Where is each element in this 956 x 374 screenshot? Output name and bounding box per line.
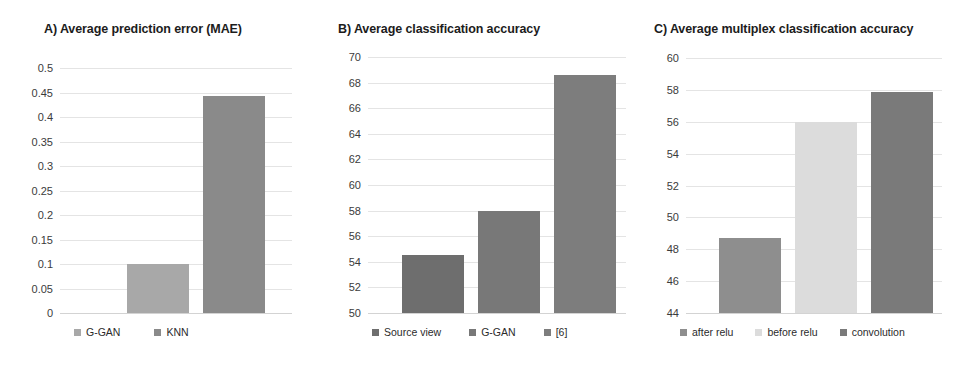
panel-c-y-tick-label: 54: [667, 148, 679, 160]
panel-a-y-tick-label: 0.3: [38, 160, 53, 172]
panel-a-y-tick-label: 0: [47, 307, 53, 319]
panel-a-y-tick-label: 0.1: [38, 258, 53, 270]
panel-c-bar-convolution: [871, 92, 933, 313]
panel-b-y-tick-label: 70: [349, 51, 361, 63]
legend-label: G-GAN: [481, 326, 515, 338]
panel-b-y-tick-label: 56: [349, 230, 361, 242]
panel-c-y-tick-label: 60: [667, 52, 679, 64]
panel-a-plot-area: 00.050.10.150.20.250.30.350.40.450.5: [60, 68, 292, 313]
panel-b-y-tick-label: 54: [349, 256, 361, 268]
panel-a-y-tick-label: 0.45: [32, 87, 53, 99]
panel-c-y-tick-label: 46: [667, 275, 679, 287]
panel-b-gridline: [368, 313, 626, 314]
panel-b-bar-source-view: [402, 255, 464, 313]
legend-label: [6]: [556, 326, 568, 338]
legend-label: convolution: [852, 326, 905, 338]
panel-c-bar-after-relu: [719, 238, 781, 313]
panel-a-bars: [60, 68, 292, 313]
panel-c-y-tick-label: 44: [667, 307, 679, 319]
panel-b-y-tick-label: 64: [349, 128, 361, 140]
panel-c-y-tick-label: 56: [667, 116, 679, 128]
legend-swatch-icon: [544, 329, 551, 336]
panel-a-y-tick-label: 0.4: [38, 111, 53, 123]
panel-a-y-tick-label: 0.2: [38, 209, 53, 221]
panel-a-legend: G-GANKNN: [74, 326, 189, 338]
panel-b-y-tick-label: 52: [349, 281, 361, 293]
panel-b-legend: Source viewG-GAN[6]: [372, 326, 567, 338]
panel-b-legend-item[interactable]: G-GAN: [469, 326, 515, 338]
legend-label: after relu: [692, 326, 733, 338]
panel-a-title: A) Average prediction error (MAE): [44, 22, 242, 36]
panel-b-bars: [368, 57, 626, 313]
panel-c-y-tick-label: 50: [667, 211, 679, 223]
panel-b-plot-area: 5052545658606264666870: [368, 57, 626, 313]
panel-c-legend: after relubefore reluconvolution: [680, 326, 905, 338]
legend-swatch-icon: [469, 329, 476, 336]
legend-swatch-icon: [680, 329, 687, 336]
legend-label: Source view: [384, 326, 441, 338]
panel-c-title: C) Average multiplex classification accu…: [654, 22, 913, 36]
legend-swatch-icon: [154, 329, 161, 336]
legend-label: KNN: [166, 326, 188, 338]
panel-b-y-tick-label: 68: [349, 77, 361, 89]
panel-a-gridline: [60, 313, 292, 314]
panel-c-legend-item[interactable]: convolution: [840, 326, 905, 338]
legend-label: G-GAN: [86, 326, 120, 338]
panel-b-legend-item[interactable]: [6]: [544, 326, 568, 338]
panel-a-y-tick-label: 0.15: [32, 234, 53, 246]
panel-c-plot-area: 444648505254565860: [686, 58, 942, 313]
panel-a-y-tick-label: 0.35: [32, 136, 53, 148]
panel-a-y-tick-label: 0.05: [32, 283, 53, 295]
panel-a-y-tick-label: 0.25: [32, 185, 53, 197]
panel-b-y-tick-label: 50: [349, 307, 361, 319]
panel-c-gridline: [686, 313, 942, 314]
panel-c-y-tick-label: 48: [667, 243, 679, 255]
panel-b-bar-g-gan: [478, 211, 540, 313]
panel-a-bar-knn: [203, 96, 265, 313]
legend-swatch-icon: [755, 329, 762, 336]
panel-b-y-tick-label: 62: [349, 153, 361, 165]
panel-b-legend-item[interactable]: Source view: [372, 326, 441, 338]
figure-three-panel-bar-charts: A) Average prediction error (MAE) 00.050…: [0, 0, 956, 374]
panel-c-legend-item[interactable]: before relu: [755, 326, 817, 338]
legend-label: before relu: [767, 326, 817, 338]
panel-b-y-tick-label: 66: [349, 102, 361, 114]
panel-c-bar-before-relu: [795, 122, 857, 313]
legend-swatch-icon: [372, 329, 379, 336]
panel-b-bar-6: [554, 75, 616, 313]
panel-c-legend-item[interactable]: after relu: [680, 326, 733, 338]
legend-swatch-icon: [74, 329, 81, 336]
panel-c-bars: [686, 58, 942, 313]
panel-c-y-tick-label: 58: [667, 84, 679, 96]
panel-a-legend-item[interactable]: KNN: [154, 326, 188, 338]
panel-b-y-tick-label: 58: [349, 205, 361, 217]
panel-a-bar-g-gan: [127, 264, 189, 313]
legend-swatch-icon: [840, 329, 847, 336]
panel-c-y-tick-label: 52: [667, 180, 679, 192]
panel-a-legend-item[interactable]: G-GAN: [74, 326, 120, 338]
panel-b: B) Average classification accuracy 50525…: [320, 0, 640, 374]
panel-c: C) Average multiplex classification accu…: [640, 0, 956, 374]
panel-b-y-tick-label: 60: [349, 179, 361, 191]
panel-b-title: B) Average classification accuracy: [338, 22, 540, 36]
panel-a: A) Average prediction error (MAE) 00.050…: [0, 0, 320, 374]
panel-a-y-tick-label: 0.5: [38, 62, 53, 74]
